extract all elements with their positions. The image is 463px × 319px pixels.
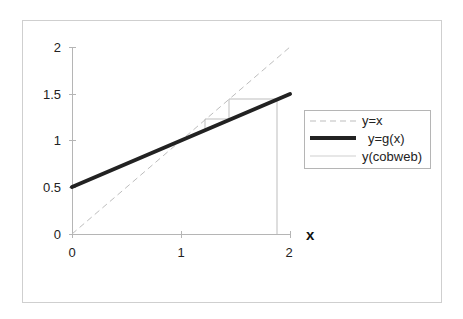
legend-label: y=g(x): [368, 131, 404, 146]
x-axis-label: x: [306, 226, 315, 243]
legend-label: y=x: [362, 113, 383, 128]
y-tick-label: 2: [54, 40, 61, 55]
y-tick-label: 1.5: [43, 87, 61, 102]
x-tick-label: 2: [285, 245, 292, 260]
legend: y=x y=g(x) y(cobweb): [305, 111, 431, 169]
x-tick-label: 1: [177, 245, 184, 260]
y-tick-label: 1: [54, 133, 61, 148]
chart: 2 1.5 1 0.5 0 0 1 2 x y=x y=g(x) y(cobwe…: [0, 0, 463, 319]
legend-label: y(cobweb): [362, 149, 422, 164]
y-tick-label: 0.5: [43, 180, 61, 195]
y-tick-label: 0: [54, 227, 61, 242]
x-tick-label: 0: [68, 245, 75, 260]
